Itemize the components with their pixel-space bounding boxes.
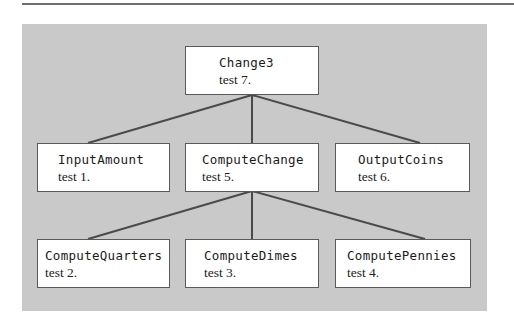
edge-change3-outputcoins <box>252 95 420 143</box>
node-computedimes: ComputeDimes test 3. <box>185 239 319 288</box>
node-computepennies: ComputePennies test 4. <box>335 239 471 288</box>
edge-computechange-computequarters <box>88 191 252 239</box>
node-test: test 4. <box>347 265 379 281</box>
node-test: test 6. <box>358 169 390 185</box>
node-test: test 1. <box>58 169 90 185</box>
node-name: Change3 <box>219 55 274 70</box>
edge-computechange-computepennies <box>252 191 425 239</box>
node-outputcoins: OutputCoins test 6. <box>335 143 470 192</box>
node-test: test 3. <box>204 265 236 281</box>
node-test: test 7. <box>219 72 251 88</box>
node-computechange: ComputeChange test 5. <box>185 143 319 192</box>
node-change3: Change3 test 7. <box>185 46 319 95</box>
node-name: OutputCoins <box>358 152 444 167</box>
node-test: test 2. <box>45 265 77 281</box>
node-name: InputAmount <box>58 152 144 167</box>
node-name: ComputeChange <box>202 152 304 167</box>
node-name: ComputeQuarters <box>45 248 162 263</box>
node-computequarters: ComputeQuarters test 2. <box>37 239 170 288</box>
edge-change3-inputamount <box>88 95 252 143</box>
node-name: ComputePennies <box>347 248 457 263</box>
node-test: test 5. <box>202 169 234 185</box>
node-inputamount: InputAmount test 1. <box>37 143 170 192</box>
node-name: ComputeDimes <box>204 248 298 263</box>
